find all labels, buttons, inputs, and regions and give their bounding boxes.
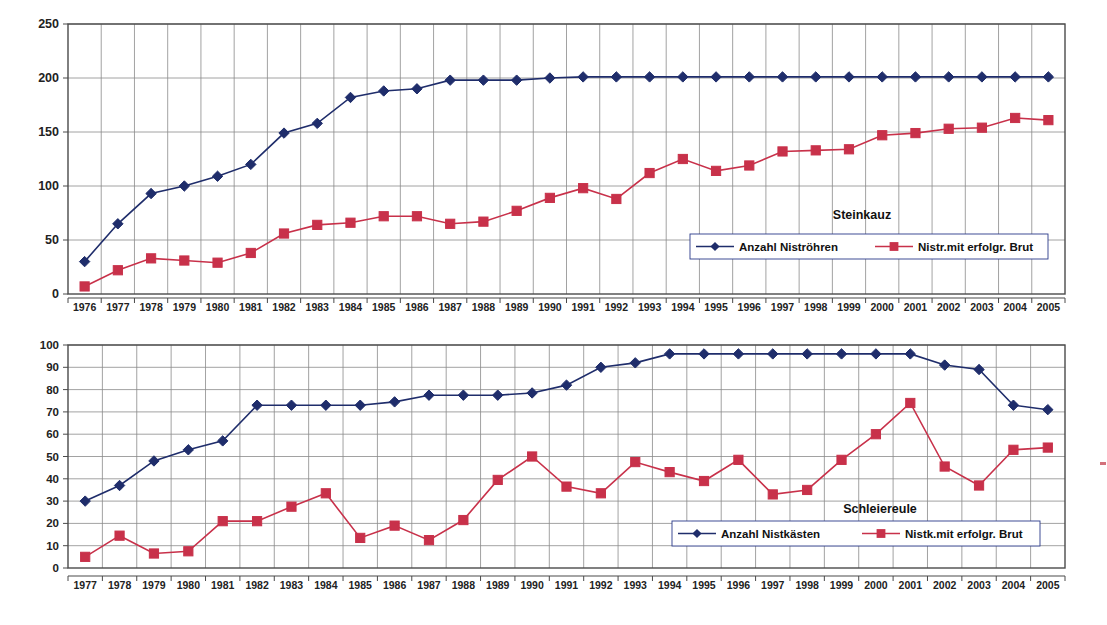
x-tick-label: 1983 <box>280 579 304 591</box>
x-tick-label: 1987 <box>417 579 441 591</box>
data-point-marker <box>218 517 227 526</box>
y-tick-label: 100 <box>40 339 59 351</box>
x-tick-label: 1999 <box>830 579 854 591</box>
legend-marker-square-icon <box>877 529 886 538</box>
data-point-marker <box>940 462 949 471</box>
data-point-marker <box>390 521 399 530</box>
y-tick-label: 30 <box>46 495 59 507</box>
data-point-marker <box>596 489 605 498</box>
legend-schleiereule[interactable]: Anzahl NistkästenNistk.mit erfolgr. Brut <box>672 521 1040 546</box>
x-tick-label: 1994 <box>671 301 695 313</box>
x-tick-label: 1978 <box>139 301 163 313</box>
y-tick-label: 80 <box>46 384 59 396</box>
data-point-marker <box>1043 443 1052 452</box>
x-tick-label: 2005 <box>1036 579 1060 591</box>
x-tick-label: 1991 <box>555 579 579 591</box>
data-point-marker <box>734 455 743 464</box>
data-point-marker <box>974 481 983 490</box>
y-tick-label: 0 <box>52 287 59 301</box>
data-point-marker <box>184 547 193 556</box>
charts-container: 0501001502002501976197719781979198019811… <box>0 0 1107 625</box>
x-tick-label: 1990 <box>520 579 544 591</box>
x-tick-label: 1993 <box>638 301 662 313</box>
x-tick-label: 2003 <box>967 579 991 591</box>
data-point-marker <box>279 229 288 238</box>
x-tick-label: 2000 <box>864 579 888 591</box>
data-point-marker <box>911 128 920 137</box>
data-point-marker <box>711 166 720 175</box>
data-point-marker <box>878 131 887 140</box>
x-tick-label: 1989 <box>505 301 529 313</box>
x-tick-label: 1980 <box>206 301 230 313</box>
x-tick-label: 2000 <box>871 301 895 313</box>
x-tick-label: 1994 <box>658 579 682 591</box>
data-point-marker <box>811 146 820 155</box>
data-point-marker <box>512 206 521 215</box>
x-tick-label: 1988 <box>452 579 476 591</box>
x-tick-label: 1992 <box>589 579 613 591</box>
data-point-marker <box>1009 445 1018 454</box>
y-tick-label: 70 <box>46 406 59 418</box>
y-tick-label: 150 <box>38 125 59 139</box>
y-tick-label: 250 <box>38 17 59 31</box>
y-tick-label: 10 <box>46 540 59 552</box>
legend-marker-square-icon <box>890 242 899 251</box>
data-point-marker <box>479 217 488 226</box>
data-point-marker <box>977 123 986 132</box>
x-tick-label: 1999 <box>837 301 861 313</box>
data-point-marker <box>837 455 846 464</box>
data-point-marker <box>768 490 777 499</box>
x-tick-label: 1996 <box>738 301 762 313</box>
x-tick-label: 1995 <box>692 579 716 591</box>
data-point-marker <box>213 258 222 267</box>
x-tick-label: 1982 <box>245 579 269 591</box>
data-point-marker <box>424 536 433 545</box>
x-tick-label: 1981 <box>239 301 263 313</box>
legend-label: Anzahl Nistkästen <box>721 528 820 540</box>
data-point-marker <box>562 482 571 491</box>
data-point-marker <box>871 430 880 439</box>
data-point-marker <box>346 218 355 227</box>
x-tick-label: 2004 <box>1003 301 1027 313</box>
data-point-marker <box>287 502 296 511</box>
data-point-marker <box>545 193 554 202</box>
data-point-marker <box>745 161 754 170</box>
x-tick-label: 2005 <box>1037 301 1061 313</box>
data-point-marker <box>115 531 124 540</box>
y-tick-label: 90 <box>46 361 59 373</box>
chart-schleiereule: 0102030405060708090100197719781979198019… <box>40 339 1065 591</box>
data-point-marker <box>252 517 261 526</box>
data-point-marker <box>180 256 189 265</box>
chart-title-steinkauz: Steinkauz <box>833 208 891 222</box>
x-tick-label: 1983 <box>306 301 330 313</box>
x-tick-label: 1987 <box>439 301 463 313</box>
x-tick-label: 1990 <box>538 301 562 313</box>
x-tick-label: 1985 <box>372 301 396 313</box>
data-point-marker <box>645 168 654 177</box>
data-point-marker <box>113 266 122 275</box>
chart-steinkauz: 0501001502002501976197719781979198019811… <box>38 17 1065 313</box>
x-tick-label: 2002 <box>933 579 957 591</box>
y-tick-label: 50 <box>45 233 59 247</box>
x-tick-label: 1997 <box>761 579 785 591</box>
x-tick-label: 2003 <box>970 301 994 313</box>
data-point-marker <box>528 452 537 461</box>
data-point-marker <box>149 549 158 558</box>
y-tick-label: 60 <box>46 428 59 440</box>
data-point-marker <box>146 254 155 263</box>
y-tick-label: 0 <box>53 562 59 574</box>
data-point-marker <box>678 154 687 163</box>
x-tick-label: 1988 <box>472 301 496 313</box>
scan-artifact <box>1100 462 1106 465</box>
data-point-marker <box>665 468 674 477</box>
data-point-marker <box>446 219 455 228</box>
data-point-marker <box>412 212 421 221</box>
data-point-marker <box>1011 113 1020 122</box>
x-tick-label: 1991 <box>571 301 595 313</box>
legend-steinkauz[interactable]: Anzahl NiströhrenNistr.mit erfolgr. Brut <box>690 234 1048 259</box>
x-tick-label: 1985 <box>349 579 373 591</box>
data-point-marker <box>493 475 502 484</box>
data-point-marker <box>699 476 708 485</box>
data-point-marker <box>313 220 322 229</box>
data-point-marker <box>778 147 787 156</box>
